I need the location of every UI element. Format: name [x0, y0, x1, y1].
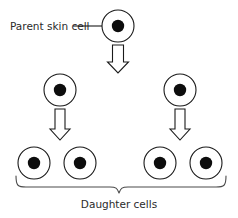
diagram-canvas: Parent skin cell — [0, 0, 238, 218]
division-arrow-parent-icon — [108, 45, 129, 73]
parent-cell — [102, 10, 134, 42]
generation-two-cell-left — [44, 74, 76, 106]
daughter-cell-1 — [18, 147, 50, 179]
daughter-cell-3 — [144, 147, 176, 179]
generation-two-cell-right — [164, 74, 196, 106]
parent-cell-nucleus-icon — [112, 20, 124, 32]
daughter-cell-2-nucleus-icon — [74, 157, 86, 169]
daughter-cell-1-nucleus-icon — [28, 157, 40, 169]
daughter-cell-2 — [64, 147, 96, 179]
generation-two-left-nucleus-icon — [54, 84, 66, 96]
cell-division-diagram: Parent skin cell — [0, 0, 238, 218]
daughter-cell-4 — [190, 147, 222, 179]
daughter-cells-label: Daughter cells — [81, 198, 157, 210]
division-arrow-right-icon — [170, 109, 190, 140]
daughter-cell-4-nucleus-icon — [200, 157, 212, 169]
generation-two-right-nucleus-icon — [174, 84, 186, 96]
daughter-cell-3-nucleus-icon — [154, 157, 166, 169]
division-arrow-left-icon — [50, 109, 70, 140]
daughter-cells-brace — [16, 176, 226, 193]
